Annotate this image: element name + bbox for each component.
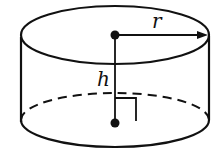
cylinder-diagram: r h [0,0,220,155]
top-center-dot [111,31,120,40]
height-label: h [97,67,110,91]
radius-arrowhead-icon [197,31,208,39]
cylinder-figure: r h [0,0,220,155]
radius-label: r [152,9,163,33]
bottom-center-dot [111,119,120,128]
right-angle-marker [115,98,136,121]
